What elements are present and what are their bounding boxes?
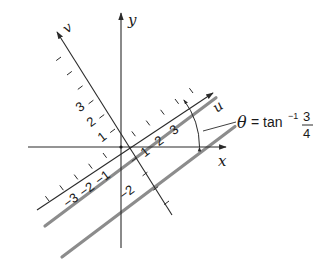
theta-symbol: θ [237, 113, 247, 132]
u-axis-label: u [209, 97, 226, 115]
y-axis-label: y [127, 11, 137, 29]
inverse-exponent: −1 [288, 111, 298, 121]
u-tick-label: −1 [92, 167, 113, 188]
equals-sign: = [251, 114, 259, 130]
x-axis-label: x [218, 152, 227, 170]
origin-point [119, 145, 122, 148]
fraction-numerator: 3 [303, 109, 310, 124]
v-tick-label: 2 [84, 113, 99, 129]
v-tick-label: −2 [116, 182, 137, 203]
v-axis-label: v [59, 19, 75, 37]
theta-annotation: θ = tan −1 3 4 [237, 109, 313, 141]
v-tick-label: 3 [73, 98, 88, 114]
tan-function: tan [263, 114, 282, 130]
u-axis-ticks [45, 88, 193, 201]
fraction-denominator: 4 [303, 126, 310, 141]
v-tick-label: 1 [95, 128, 110, 144]
diagram-canvas: x y u 1 2 3 −1 −2 [0, 0, 324, 264]
parallel-lines [45, 98, 235, 257]
